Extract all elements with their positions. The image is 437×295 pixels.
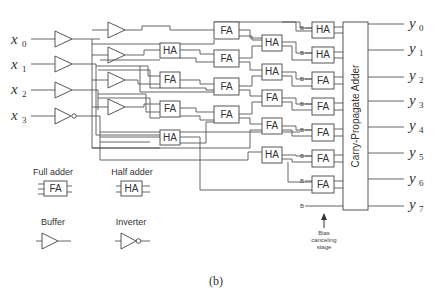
output-sub: 6 xyxy=(419,178,424,188)
block-label: HA xyxy=(265,37,279,48)
output-y2: y xyxy=(407,67,416,83)
output-sub: 7 xyxy=(419,204,424,214)
buffer-icon xyxy=(55,82,72,98)
block-label: FA xyxy=(220,25,233,36)
block-label: FA xyxy=(317,153,330,164)
legend-inverter-icon xyxy=(121,233,136,249)
block-label: FA xyxy=(266,120,279,131)
figure-caption: (b) xyxy=(209,274,223,288)
inverter-bubble-icon xyxy=(72,114,76,118)
output-y4: y xyxy=(407,117,416,133)
inverter-icon xyxy=(55,108,71,124)
buffer-icon xyxy=(108,47,125,63)
adder-column-4: HA HA FA FA FA FA FA xyxy=(312,22,334,193)
output-y3: y xyxy=(407,92,416,108)
block-label: FA xyxy=(317,101,330,112)
bias-label: B xyxy=(300,203,304,209)
output-y5: y xyxy=(407,144,416,160)
block-label: HA xyxy=(316,49,330,60)
buffer-icon xyxy=(108,99,125,115)
legend-inverter-title: Inverter xyxy=(116,217,147,227)
output-sub: 3 xyxy=(419,100,424,110)
block-label: FA xyxy=(220,53,233,64)
output-y6: y xyxy=(407,170,416,186)
output-y7: y xyxy=(407,196,416,212)
input-x1: x xyxy=(10,56,18,72)
buffer-icon xyxy=(108,72,125,88)
block-label: FA xyxy=(317,75,330,86)
input-x3: x xyxy=(10,107,18,123)
shift-buffers xyxy=(108,22,125,115)
bias-label: B xyxy=(300,127,304,133)
arrow-up-icon xyxy=(321,213,327,220)
input-buffers xyxy=(55,31,76,124)
block-label: HA xyxy=(265,149,279,160)
legend-half-adder-title: Half adder xyxy=(111,167,153,177)
output-sub: 5 xyxy=(419,152,424,162)
block-label: HA xyxy=(163,45,177,56)
bias-label: B xyxy=(300,25,304,31)
adder-column-3: HA HA FA FA HA xyxy=(262,35,282,163)
output-labels: y 0 y 1 y 2 y 3 y 4 y 5 y 6 y 7 xyxy=(407,15,424,214)
annotation-line: stage xyxy=(317,244,332,250)
block-label: FA xyxy=(220,109,233,120)
output-sub: 0 xyxy=(419,23,424,33)
legend-fa-symbol: FA xyxy=(49,183,62,194)
input-x0-sub: 0 xyxy=(22,39,27,49)
annotation-line: Bias xyxy=(318,230,330,236)
bias-label: B xyxy=(300,76,304,82)
buffer-icon xyxy=(55,31,72,47)
block-label: FA xyxy=(164,74,177,85)
buffer-icon xyxy=(108,22,125,38)
adder-column-2: FA FA FA FA xyxy=(214,22,239,123)
block-label: FA xyxy=(317,127,330,138)
bias-canceling-annotation: Bias canceling stage xyxy=(311,213,336,250)
multiplier-diagram: x 0 x 1 x 2 x 3 xyxy=(0,0,437,295)
input-x3-sub: 3 xyxy=(22,115,27,125)
legend-full-adder-title: Full adder xyxy=(33,167,73,177)
annotation-line: canceling xyxy=(311,237,336,243)
bias-label: B xyxy=(300,178,304,184)
output-y1: y xyxy=(407,40,416,56)
inverter-bubble-icon xyxy=(136,239,141,244)
output-y0: y xyxy=(407,15,416,31)
output-sub: 4 xyxy=(419,125,424,135)
carry-propagate-adder: Carry-Propagate Adder xyxy=(343,22,368,210)
block-label: HA xyxy=(265,66,279,77)
buffer-icon xyxy=(55,56,72,72)
block-label: HA xyxy=(316,24,330,35)
cpa-label: Carry-Propagate Adder xyxy=(350,64,361,168)
bias-label: B xyxy=(300,50,304,56)
output-sub: 1 xyxy=(419,48,424,58)
legend: Full adder FA Half adder HA Buffer Inver… xyxy=(33,167,153,249)
adder-column-1: HA FA FA HA xyxy=(160,43,180,145)
block-label: FA xyxy=(266,92,279,103)
input-x1-sub: 1 xyxy=(22,64,27,74)
output-sub: 2 xyxy=(419,75,424,85)
input-labels: x 0 x 1 x 2 x 3 xyxy=(10,31,27,125)
block-label: FA xyxy=(220,81,233,92)
block-label: FA xyxy=(164,103,177,114)
bias-label: B xyxy=(300,153,304,159)
legend-ha-symbol: HA xyxy=(125,183,139,194)
legend-buffer-title: Buffer xyxy=(41,217,65,227)
block-label: FA xyxy=(317,179,330,190)
bias-label: B xyxy=(300,101,304,107)
block-label: HA xyxy=(163,132,177,143)
input-x0: x xyxy=(10,31,18,47)
input-x2-sub: 2 xyxy=(22,89,27,99)
input-x2: x xyxy=(10,81,18,97)
legend-buffer-icon xyxy=(42,233,58,249)
